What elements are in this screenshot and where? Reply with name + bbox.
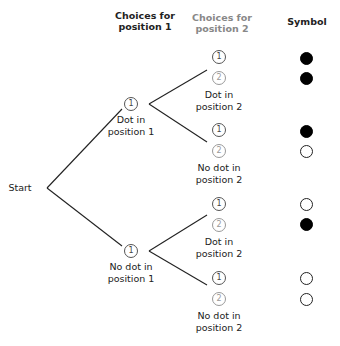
choice-2: 2 xyxy=(212,144,226,158)
symbol-filled-dot xyxy=(300,218,313,231)
symbol-empty-dot xyxy=(300,198,313,211)
symbol-filled-dot xyxy=(300,72,313,85)
label-dot-position-2: Dot in position 2 xyxy=(174,89,264,112)
symbol-filled-dot xyxy=(300,125,313,138)
symbol-empty-dot xyxy=(300,272,313,285)
choice-2: 2 xyxy=(212,71,226,85)
node-position1-nodot: 1 xyxy=(124,244,138,258)
label-nodot-position-1: No dot in position 1 xyxy=(86,261,176,284)
label-nodot-position-2: No dot in position 2 xyxy=(174,162,264,185)
choice-2: 2 xyxy=(212,292,226,306)
symbol-empty-dot xyxy=(300,145,313,158)
choice-1: 1 xyxy=(212,50,226,64)
header-position-1: Choices for position 1 xyxy=(105,10,185,32)
choice-1: 1 xyxy=(212,197,226,211)
header-symbol: Symbol xyxy=(280,16,334,27)
node-position1-dot: 1 xyxy=(124,97,138,111)
branch-start-to-nodot1 xyxy=(47,188,122,246)
tree-branches xyxy=(0,0,340,346)
choice-2: 2 xyxy=(212,218,226,232)
symbol-filled-dot xyxy=(300,52,313,65)
start-label: Start xyxy=(0,182,40,194)
symbol-empty-dot xyxy=(300,293,313,306)
label-dot-position-1: Dot in position 1 xyxy=(86,114,176,137)
label-nodot-position-2: No dot in position 2 xyxy=(174,310,264,333)
header-position-2: Choices for position 2 xyxy=(182,12,262,34)
choice-1: 1 xyxy=(212,271,226,285)
label-dot-position-2: Dot in position 2 xyxy=(174,236,264,259)
choice-1: 1 xyxy=(212,123,226,137)
